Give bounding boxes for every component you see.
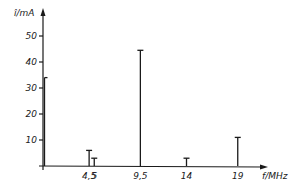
y-tick-label: 50 [26, 31, 38, 41]
x-tick-label: 5 [91, 171, 97, 181]
y-axis-arrow [41, 8, 46, 16]
x-tick-label: 19 [232, 171, 244, 181]
x-ticks: 4,559,51419 [82, 171, 244, 181]
y-axis-label: î/mA [14, 8, 34, 18]
spectral-lines [45, 50, 241, 166]
x-tick-label: 14 [181, 171, 193, 181]
y-tick-label: 40 [26, 57, 38, 67]
y-tick-label: 30 [26, 83, 38, 93]
x-tick-label: 9,5 [133, 171, 148, 181]
x-axis-label: f/MHz [262, 171, 288, 181]
y-tick-label: 20 [26, 109, 38, 119]
x-axis-line [39, 166, 264, 167]
y-tick-label: 10 [26, 135, 38, 145]
y-ticks: 1020304050 [26, 31, 43, 145]
spectrum-chart: 1020304050 4,559,51419 î/mA f/MHz [0, 0, 302, 195]
axes [39, 8, 268, 170]
x-axis-arrow [260, 165, 268, 170]
